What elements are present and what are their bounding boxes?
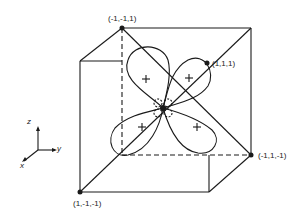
plus-sign: [142, 75, 150, 83]
lobe-upper-right: [163, 58, 211, 108]
plus-sign: [193, 123, 201, 131]
lobe-lower-left: [111, 108, 163, 155]
cube-edge: [209, 155, 251, 192]
label-neg-pos-neg: (-1,1,-1): [258, 151, 286, 160]
orbital-diagram: [0, 0, 304, 224]
lobe-upper-left: [127, 47, 170, 108]
corner-point: [78, 190, 83, 195]
lobe-lower-right: [163, 108, 216, 153]
axis-label-z: z: [27, 117, 31, 126]
label-neg-neg-pos: (-1,-1,1): [108, 14, 136, 23]
axis-label-x: x: [20, 161, 24, 170]
arrow-head: [36, 126, 40, 131]
corner-point: [120, 26, 125, 31]
cube-edge: [80, 28, 122, 61]
corner-point: [205, 61, 210, 66]
label-pos-pos-pos: (1,1,1): [212, 59, 235, 68]
corner-point: [249, 153, 254, 158]
axis-label-y: y: [57, 144, 61, 153]
label-pos-neg-neg: (1,-1,-1): [73, 199, 101, 208]
center-point: [160, 105, 166, 111]
plus-sign: [185, 74, 193, 82]
